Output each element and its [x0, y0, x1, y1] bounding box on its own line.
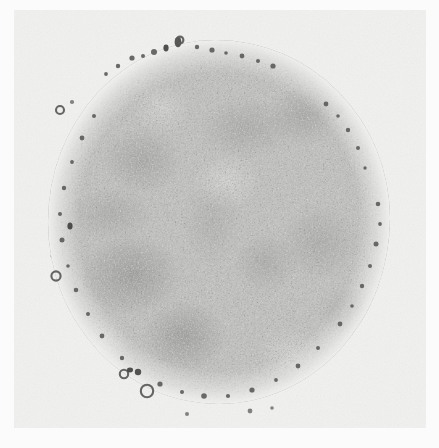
cell-profile	[48, 40, 390, 404]
cell-interior	[48, 40, 390, 404]
micrograph-figure: Transmission electron micrograph of a se…	[0, 0, 439, 448]
rim-vignette	[48, 40, 390, 404]
